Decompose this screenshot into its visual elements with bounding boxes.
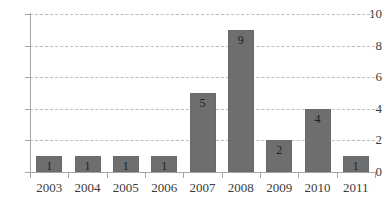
x-axis-tick-mark [222,172,223,178]
x-axis-tick-label: 2007 [183,181,221,194]
bar: 1 [113,156,139,172]
bar: 1 [75,156,101,172]
bar: 4 [305,109,331,172]
bar: 5 [190,93,216,172]
bar-value-label: 2 [267,144,291,157]
x-axis-tick-label: 2005 [107,181,145,194]
bar-series: 111159241 [30,14,375,172]
bar-value-label: 9 [229,34,253,47]
x-axis-tick-label: 2008 [222,181,260,194]
x-axis-tick-label: 2003 [30,181,68,194]
x-axis-tick-mark [30,172,31,178]
x-axis-tick-mark [183,172,184,178]
x-axis-tick-label: 2011 [337,181,375,194]
x-axis-tick-mark [375,172,376,178]
bar-value-label: 1 [114,160,138,173]
x-axis-tick-mark [260,172,261,178]
bar: 9 [228,30,254,172]
bar-chart: 0246810 111159241 2003200420052006200720… [0,0,382,210]
x-axis-tick-label: 2006 [145,181,183,194]
x-axis-tick-label: 2010 [298,181,336,194]
x-axis-tick-mark [145,172,146,178]
x-axis-tick-label: 2009 [260,181,298,194]
bar-value-label: 1 [152,160,176,173]
x-axis-tick-mark [107,172,108,178]
bar-value-label: 1 [76,160,100,173]
bar-value-label: 4 [306,113,330,126]
bar-value-label: 1 [344,160,368,173]
bar: 1 [151,156,177,172]
x-axis-tick-mark [68,172,69,178]
x-axis-tick-mark [298,172,299,178]
bar: 2 [266,140,292,172]
bar-value-label: 1 [37,160,61,173]
bar-value-label: 5 [191,97,215,110]
bar: 1 [36,156,62,172]
bar: 1 [343,156,369,172]
x-axis-tick-label: 2004 [68,181,106,194]
x-axis-tick-mark [337,172,338,178]
